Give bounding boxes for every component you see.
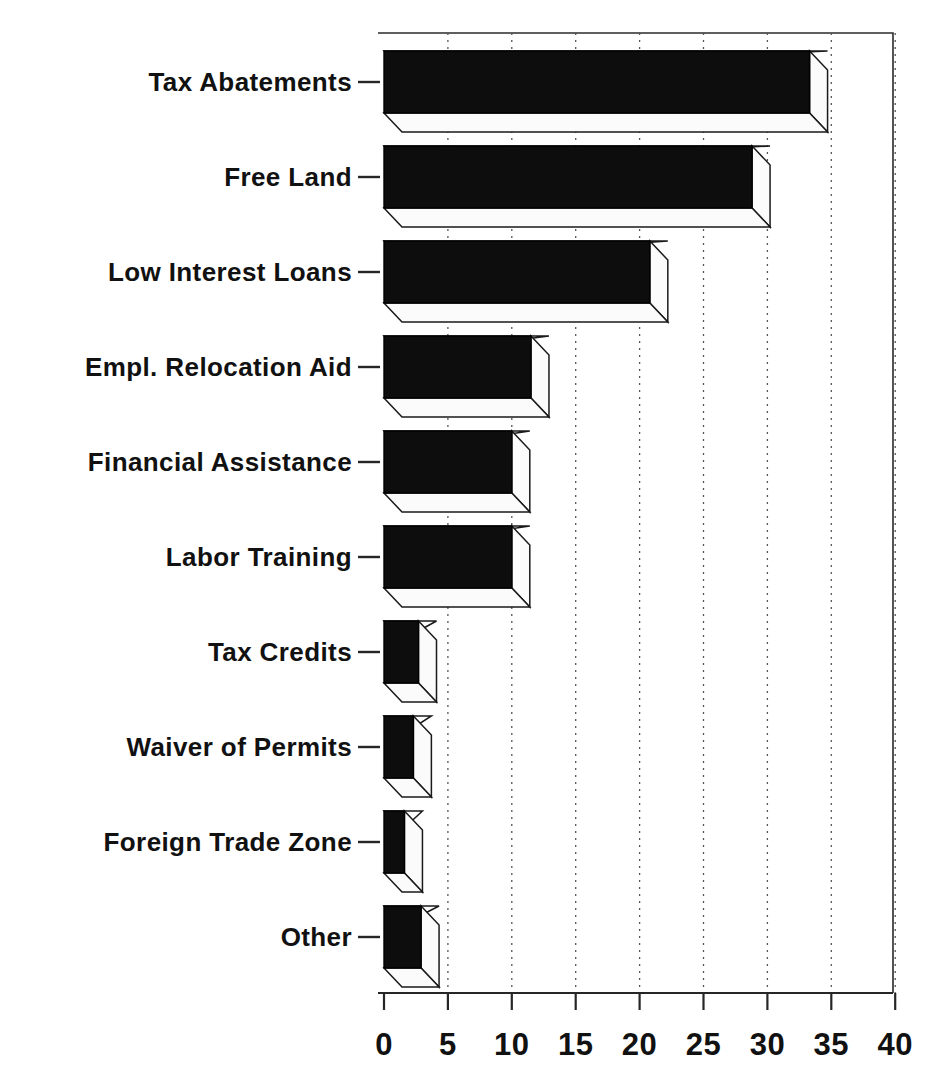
- category-label-1: Free Land: [224, 162, 352, 192]
- bar-bottom-face: [384, 493, 530, 512]
- bar-bottom-face: [384, 113, 828, 132]
- bar-front-face: [384, 431, 512, 493]
- bar-bottom-face: [384, 588, 530, 607]
- chart-canvas: Tax AbatementsFree LandLow Interest Loan…: [0, 0, 941, 1083]
- bars-group: [384, 51, 828, 987]
- category-label-9: Other: [281, 922, 352, 952]
- x-tick-label-0: 0: [375, 1027, 393, 1062]
- category-label-8: Foreign Trade Zone: [104, 827, 352, 857]
- bar-front-face: [384, 906, 421, 968]
- bar-front-face: [384, 336, 531, 398]
- bar-front-face: [384, 146, 752, 208]
- x-axis: [378, 993, 895, 1010]
- bar: [384, 431, 530, 512]
- category-labels: Tax AbatementsFree LandLow Interest Loan…: [85, 67, 352, 952]
- category-label-3: Empl. Relocation Aid: [85, 352, 352, 382]
- bar: [384, 241, 668, 322]
- bar: [384, 621, 437, 702]
- x-tick-label-35: 35: [814, 1027, 849, 1062]
- bar: [384, 526, 530, 607]
- bar: [384, 146, 770, 227]
- x-tick-label-40: 40: [877, 1027, 912, 1062]
- x-tick-label-5: 5: [439, 1027, 457, 1062]
- category-label-4: Financial Assistance: [88, 447, 352, 477]
- x-tick-label-25: 25: [686, 1027, 721, 1062]
- bar-bottom-face: [384, 208, 770, 227]
- bar-front-face: [384, 811, 404, 873]
- bar: [384, 336, 549, 417]
- bar: [384, 906, 439, 987]
- bar-front-face: [384, 241, 650, 303]
- x-tick-label-10: 10: [494, 1027, 529, 1062]
- bar-front-face: [384, 716, 413, 778]
- x-tick-label-20: 20: [622, 1027, 657, 1062]
- bar-front-face: [384, 621, 419, 683]
- bar: [384, 716, 431, 797]
- bar: [384, 811, 422, 892]
- bar-front-face: [384, 526, 512, 588]
- x-tick-label-30: 30: [750, 1027, 785, 1062]
- x-axis-ticks: [384, 993, 895, 1010]
- category-label-0: Tax Abatements: [148, 67, 352, 97]
- x-tick-labels: 0510152025303540: [375, 1027, 913, 1062]
- bar: [384, 51, 828, 132]
- category-label-2: Low Interest Loans: [108, 257, 352, 287]
- bar-chart: Tax AbatementsFree LandLow Interest Loan…: [0, 0, 941, 1083]
- x-tick-label-15: 15: [558, 1027, 593, 1062]
- y-axis-ticks: [358, 82, 380, 937]
- bar-bottom-face: [384, 398, 549, 417]
- category-label-5: Labor Training: [166, 542, 352, 572]
- category-label-7: Waiver of Permits: [127, 732, 352, 762]
- bar-bottom-face: [384, 303, 668, 322]
- bar-front-face: [384, 51, 810, 113]
- category-label-6: Tax Credits: [208, 637, 352, 667]
